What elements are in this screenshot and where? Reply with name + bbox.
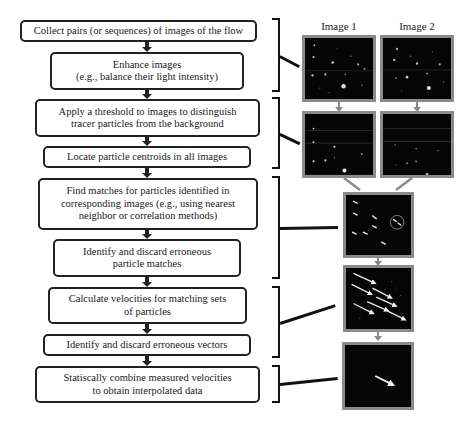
leader-line xyxy=(280,226,338,230)
threshold-image-1 xyxy=(302,111,376,178)
step-enhance-images: Enhance images (e.g., balance their ligh… xyxy=(50,52,244,90)
step-find-matches: Find matches for particles identified in… xyxy=(38,178,258,230)
raw-image-2 xyxy=(380,35,454,102)
leader-line xyxy=(280,377,338,386)
interpolated-velocity-image xyxy=(342,342,414,410)
step-apply-threshold: Apply a threshold to images to distingui… xyxy=(35,99,260,137)
leader-line xyxy=(279,55,300,68)
bracket-group-2 xyxy=(272,97,280,169)
image2-label: Image 2 xyxy=(380,20,454,32)
converging-arrows-icon xyxy=(340,178,416,193)
velocity-vectors-image xyxy=(343,265,414,332)
bracket-group-3 xyxy=(272,176,280,279)
raw-image-1 xyxy=(302,35,376,102)
step-combine-velocities: Statiscally combine measured velocities … xyxy=(35,366,260,403)
threshold-image-2 xyxy=(380,111,454,178)
step-collect-images: Collect pairs (or sequences) of images o… xyxy=(20,20,257,42)
step-discard-vectors: Identify and discard erroneous vectors xyxy=(43,334,251,356)
image1-label: Image 1 xyxy=(302,20,376,32)
particle-matches-image xyxy=(343,192,414,258)
step-calculate-velocities: Calculate velocities for matching sets o… xyxy=(48,287,247,324)
leader-line xyxy=(280,304,336,324)
bracket-group-1 xyxy=(272,18,280,92)
step-locate-centroids: Locate particle centroids in all images xyxy=(43,146,251,168)
bracket-group-5 xyxy=(272,365,280,403)
step-discard-matches: Identify and discard erroneous particle … xyxy=(53,239,241,277)
connector-arrow-icon xyxy=(372,331,384,341)
leader-line xyxy=(279,133,300,145)
